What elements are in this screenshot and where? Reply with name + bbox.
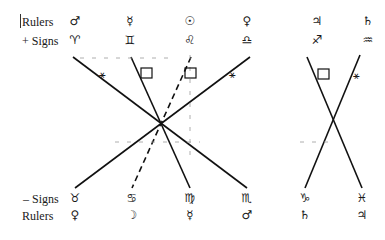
sign-pisces-icon: ♓ bbox=[357, 192, 368, 204]
sign-virgo-icon: ♍ bbox=[185, 192, 196, 204]
line-gemini-virgo bbox=[131, 57, 190, 188]
sextile-aspect-icon: ⚹ bbox=[353, 70, 360, 82]
square-aspect-icon bbox=[185, 68, 196, 78]
square-aspect-icon bbox=[141, 68, 152, 78]
sextile-aspect-icon: ⚹ bbox=[99, 69, 106, 81]
bottom-signs-label: – Signs bbox=[23, 193, 59, 205]
square-aspect-icon bbox=[318, 69, 329, 79]
ruler-mars-icon: ♂ bbox=[242, 209, 253, 221]
sign-taurus-icon: ♉ bbox=[70, 192, 81, 204]
ruler-mercury-icon: ☿ bbox=[186, 209, 193, 221]
ruler-venus-icon: ♀ bbox=[71, 209, 80, 221]
sign-scorpio-icon: ♏ bbox=[242, 192, 253, 204]
ruler-jupiter-icon: ♃ bbox=[357, 209, 368, 221]
sextile-aspect-icon: ⚹ bbox=[229, 69, 236, 81]
sign-cancer-icon: ♋ bbox=[127, 192, 138, 204]
ruler-saturn-icon: ♄ bbox=[300, 209, 311, 221]
bottom-rulers-label: Rulers bbox=[22, 210, 53, 222]
ruler-moon-icon: ☽ bbox=[127, 209, 138, 221]
sign-capricorn-icon: ♑ bbox=[300, 192, 311, 204]
